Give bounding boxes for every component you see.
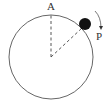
radius-to-p [51,28,82,57]
label-a: A [47,0,55,12]
ball-p [79,18,91,30]
label-p: P [96,30,102,42]
clockwise-arrow-icon [95,11,101,28]
circular-motion-diagram: A P [0,0,108,107]
